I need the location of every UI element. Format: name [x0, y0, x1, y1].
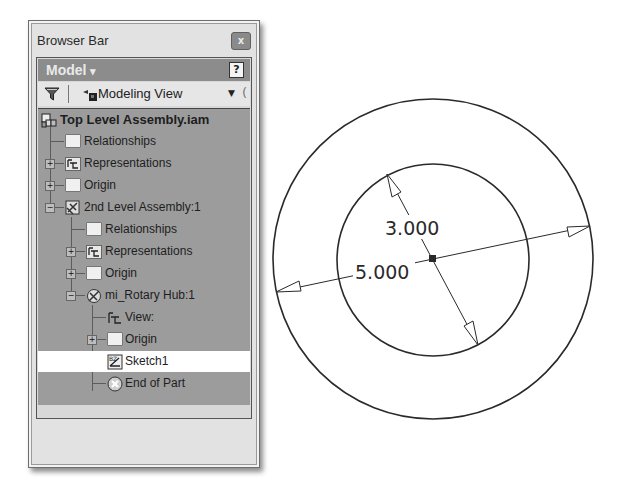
sketch-canvas[interactable]: 3.000 5.000: [0, 0, 627, 498]
arrowhead-icon: [464, 321, 478, 345]
outer-diameter-value[interactable]: 5.000: [355, 261, 409, 283]
arrowhead-icon: [387, 174, 401, 197]
arrowhead-icon: [567, 226, 590, 237]
center-point[interactable]: [429, 255, 436, 262]
arrowhead-icon: [276, 281, 301, 292]
inner-diameter-value[interactable]: 3.000: [385, 217, 439, 239]
